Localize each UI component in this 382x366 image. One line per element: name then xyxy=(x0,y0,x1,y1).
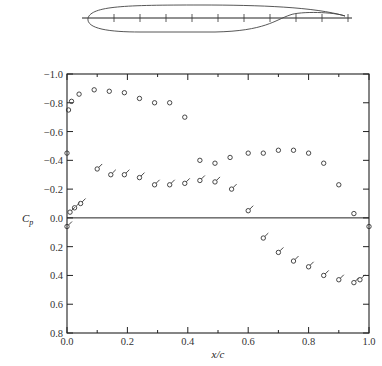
point-marker xyxy=(68,210,72,214)
upper-surface-point xyxy=(137,96,141,100)
series-upper-surface xyxy=(65,88,371,229)
x-tick-label: 0.6 xyxy=(242,336,255,347)
y-axis: −1.0−0.8−0.6−0.4−0.20.00.20.40.60.8 xyxy=(44,69,369,339)
x-tick-label: 0.8 xyxy=(302,336,315,347)
point-flag xyxy=(325,270,328,273)
y-tick-label: 0.4 xyxy=(50,270,64,281)
airfoil-inset xyxy=(82,5,352,32)
lower-surface-point xyxy=(109,170,116,177)
point-marker xyxy=(167,183,171,187)
lower-surface-point xyxy=(229,184,236,191)
point-marker xyxy=(306,265,310,269)
point-flag xyxy=(217,177,220,180)
upper-surface-point xyxy=(167,101,171,105)
lower-surface-point xyxy=(291,256,298,263)
upper-surface-point xyxy=(276,148,280,152)
y-tick-label: 0.2 xyxy=(50,242,63,253)
x-tick-label: 0.0 xyxy=(60,336,73,347)
point-marker xyxy=(261,236,265,240)
upper-surface-point xyxy=(213,161,217,165)
plot-frame xyxy=(67,74,369,333)
point-marker xyxy=(246,151,250,155)
y-tick-label: 0.6 xyxy=(50,299,63,310)
series-lower-surface xyxy=(65,164,365,285)
point-marker xyxy=(213,180,217,184)
point-flag xyxy=(156,180,159,183)
lower-surface-point xyxy=(78,199,85,206)
upper-surface-point xyxy=(337,183,341,187)
point-marker xyxy=(322,161,326,165)
series-layer xyxy=(65,88,371,285)
y-tick-label: −0.8 xyxy=(44,98,63,109)
point-flag xyxy=(295,256,298,259)
upper-surface-point xyxy=(183,115,187,119)
point-flag xyxy=(112,170,115,173)
y-axis-title: Cp xyxy=(22,212,33,227)
lower-surface-point xyxy=(167,180,174,187)
lower-surface-point xyxy=(137,173,144,180)
x-tick-label: 0.4 xyxy=(181,336,195,347)
point-marker xyxy=(228,155,232,159)
lower-surface-point xyxy=(246,206,253,213)
point-marker xyxy=(95,167,99,171)
point-marker xyxy=(198,158,202,162)
point-flag xyxy=(265,233,268,236)
point-flag xyxy=(250,206,253,209)
point-marker xyxy=(276,250,280,254)
upper-surface-point xyxy=(228,155,232,159)
upper-surface-point xyxy=(107,89,111,93)
lower-surface-point xyxy=(68,207,75,214)
point-marker xyxy=(122,173,126,177)
point-marker xyxy=(358,278,362,282)
lower-surface-point xyxy=(65,222,72,229)
point-marker xyxy=(291,259,295,263)
point-marker xyxy=(352,280,356,284)
point-marker xyxy=(337,183,341,187)
upper-surface-point xyxy=(291,148,295,152)
upper-surface-point xyxy=(261,151,265,155)
lower-surface-point xyxy=(358,275,365,282)
lower-surface-point xyxy=(276,247,283,254)
point-flag xyxy=(171,180,174,183)
point-marker xyxy=(213,161,217,165)
point-marker xyxy=(167,101,171,105)
y-tick-label: 0.0 xyxy=(50,213,63,224)
point-flag xyxy=(126,170,129,173)
x-tick-label: 1.0 xyxy=(362,336,375,347)
x-axis-title: x/c xyxy=(211,348,225,360)
y-tick-label: −0.6 xyxy=(44,127,63,138)
point-marker xyxy=(276,148,280,152)
point-marker xyxy=(122,91,126,95)
lower-surface-point xyxy=(122,170,129,177)
upper-surface-point xyxy=(152,101,156,105)
upper-surface-point xyxy=(322,161,326,165)
lower-surface-point xyxy=(152,180,159,187)
point-marker xyxy=(306,151,310,155)
point-flag xyxy=(82,199,85,202)
x-axis: 0.00.20.40.60.81.0 xyxy=(60,74,375,347)
upper-surface-point xyxy=(246,151,250,155)
point-marker xyxy=(198,178,202,182)
point-marker xyxy=(137,175,141,179)
point-marker xyxy=(77,92,81,96)
x-tick-label: 0.2 xyxy=(121,336,134,347)
point-flag xyxy=(280,247,283,250)
upper-surface-point xyxy=(352,211,356,215)
y-tick-label: −0.2 xyxy=(44,184,63,195)
point-flag xyxy=(99,164,102,167)
lower-surface-point xyxy=(213,177,220,184)
lower-surface-point xyxy=(306,262,313,269)
point-marker xyxy=(261,151,265,155)
point-flag xyxy=(186,178,189,181)
point-marker xyxy=(137,96,141,100)
point-marker xyxy=(92,88,96,92)
lower-surface-point xyxy=(261,233,268,240)
lower-surface-point xyxy=(322,270,329,277)
point-flag xyxy=(201,175,204,178)
point-flag xyxy=(69,222,72,225)
point-flag xyxy=(233,184,236,187)
pressure-coefficient-chart: −1.0−0.8−0.6−0.4−0.20.00.20.40.60.8 0.00… xyxy=(0,0,382,366)
point-marker xyxy=(109,173,113,177)
point-marker xyxy=(183,181,187,185)
point-marker xyxy=(107,89,111,93)
